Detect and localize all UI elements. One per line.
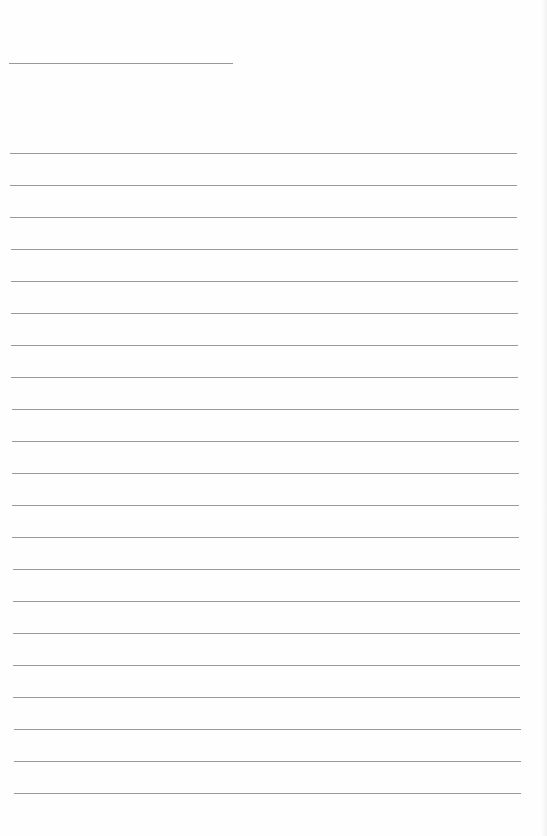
ruled-line [12,441,519,442]
ruled-line [11,281,518,282]
ruled-line [11,249,518,250]
ruled-line [13,665,520,666]
ruled-line [12,409,519,410]
ruled-line [12,537,519,538]
ruled-line [10,153,517,154]
ruled-line [11,313,518,314]
ruled-line [13,601,520,602]
ruled-line [14,793,521,794]
ruled-line [12,505,519,506]
ruled-line [10,217,517,218]
ruled-line [12,473,519,474]
ruled-line [13,633,520,634]
ruled-lines [0,0,547,836]
ruled-line [11,345,518,346]
page-edge-shadow [541,0,547,836]
ruled-line [10,185,517,186]
ruled-line [13,697,520,698]
ruled-line [13,569,520,570]
lined-paper-page [0,0,547,836]
ruled-line [11,377,518,378]
ruled-line [14,761,521,762]
ruled-line [14,729,521,730]
